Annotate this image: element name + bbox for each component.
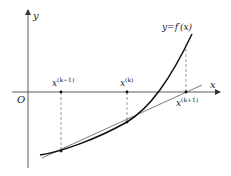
point-x-k-axis bbox=[126, 91, 129, 94]
point-x-km1-curve bbox=[60, 150, 63, 153]
label-x-k: x(k) bbox=[120, 76, 133, 88]
origin-label: O bbox=[17, 94, 25, 105]
point-x-k-curve bbox=[126, 121, 129, 124]
label-x-kp1: x(k+1) bbox=[176, 96, 198, 108]
y-axis-label: y bbox=[32, 10, 39, 21]
curve-label: y=f′(x) bbox=[161, 22, 193, 32]
point-x-kp1-axis bbox=[185, 91, 188, 94]
curve-f-prime bbox=[40, 34, 192, 155]
tangent-line bbox=[42, 85, 202, 158]
newton-method-diagram: y x O x(k−1) x(k) x(k+1) y=f′(x) bbox=[0, 0, 231, 176]
label-x-km1: x(k−1) bbox=[52, 76, 74, 88]
x-axis-label: x bbox=[210, 79, 216, 90]
point-x-km1-axis bbox=[60, 91, 63, 94]
